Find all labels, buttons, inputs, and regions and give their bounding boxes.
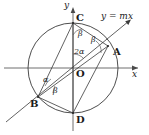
point-marker-D [72,112,74,114]
chord-AD [73,46,108,113]
angle-label-beta-at-B: β [53,87,58,95]
angle-label-alpha-at-B: α [43,76,48,84]
chord-BD [38,97,73,113]
point-label-O: O [76,69,85,79]
point-marker-A [107,45,109,47]
line-y-equals-mx [6,21,129,122]
angle-label-beta-at-A: β [91,36,96,44]
line-equation-label: y = mx [101,12,133,21]
angle-label-beta-at-C: β [78,30,83,38]
point-label-C: C [76,13,84,23]
geometry-figure: y x y = mx A B C D O β β 2α α β [0,0,149,135]
y-axis-arrowhead [71,7,76,13]
y-axis-label: y [64,1,69,10]
point-label-B: B [30,99,38,109]
point-marker-C [72,22,74,24]
point-label-D: D [76,115,85,125]
x-axis-label: x [132,70,137,79]
point-label-A: A [113,47,121,57]
angle-label-two-alpha-at-O: 2α [74,48,85,56]
